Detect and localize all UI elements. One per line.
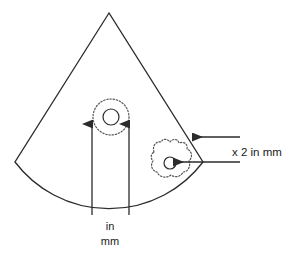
diagram-canvas: x 2 in mm in mm <box>0 0 297 259</box>
bottom-measurement-label-line2: mm <box>101 235 119 247</box>
upper-lesion-dotted-circle <box>93 99 129 135</box>
bottom-measurement-label-line1: in <box>106 220 115 232</box>
lower-lesion-dotted-blob <box>151 139 191 177</box>
side-measurement-label: x 2 in mm <box>232 146 282 158</box>
lower-lesion-inner-circle <box>164 157 176 169</box>
upper-lesion-inner-circle <box>103 109 119 125</box>
diagram-svg: x 2 in mm in mm <box>0 0 297 259</box>
ultrasound-sector-outline <box>15 13 203 209</box>
